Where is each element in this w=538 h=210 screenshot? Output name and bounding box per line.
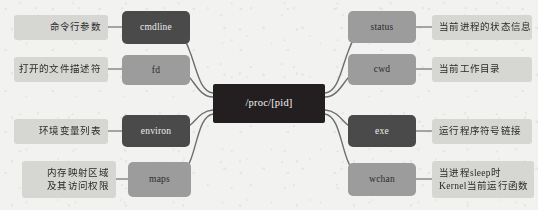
center-node-proc-pid[interactable]: /proc/[pid]	[213, 84, 325, 123]
node-maps[interactable]: maps	[128, 162, 191, 197]
leaf-exe-text: 运行程序符号链接	[439, 125, 521, 138]
node-environ-label: environ	[141, 126, 171, 137]
node-wchan-label: wchan	[369, 174, 395, 185]
node-exe[interactable]: exe	[348, 115, 416, 147]
node-maps-label: maps	[149, 174, 170, 185]
leaf-exe-description: 运行程序符号链接	[432, 119, 532, 144]
leaf-maps-text: 内存映射区域 及其访问权限	[47, 167, 109, 192]
node-wchan[interactable]: wchan	[348, 163, 416, 196]
leaf-fd-description: 打开的文件描述符	[14, 57, 108, 82]
leaf-environ-text: 环境变量列表	[39, 125, 101, 138]
node-cwd-label: cwd	[374, 64, 390, 75]
leaf-cmdline-text: 命令行参数	[50, 21, 102, 34]
leaf-fd-text: 打开的文件描述符	[19, 63, 101, 76]
node-environ[interactable]: environ	[122, 115, 190, 147]
leaf-environ-description: 环境变量列表	[14, 119, 108, 144]
node-status-label: status	[371, 22, 394, 33]
node-cmdline-label: cmdline	[140, 22, 172, 33]
leaf-status-text: 当前进程的状态信息	[439, 21, 532, 34]
node-fd[interactable]: fd	[122, 55, 190, 85]
leaf-cmdline-description: 命令行参数	[14, 15, 108, 40]
leaf-maps-description: 内存映射区域 及其访问权限	[22, 161, 116, 198]
center-node-label: /proc/[pid]	[245, 97, 292, 109]
node-exe-label: exe	[375, 126, 389, 137]
mindmap-canvas: /proc/[pid] cmdline fd environ maps 命令行参…	[0, 0, 538, 210]
leaf-wchan-text: 当进程sleep时 Kernel当前运行函数	[439, 167, 528, 192]
node-status[interactable]: status	[348, 11, 416, 43]
leaf-cwd-text: 当前工作目录	[439, 63, 501, 76]
leaf-wchan-description: 当进程sleep时 Kernel当前运行函数	[432, 161, 534, 198]
node-cwd[interactable]: cwd	[348, 54, 416, 85]
leaf-cwd-description: 当前工作目录	[432, 57, 532, 82]
leaf-status-description: 当前进程的状态信息	[432, 15, 532, 40]
node-cmdline[interactable]: cmdline	[122, 11, 190, 44]
node-fd-label: fd	[152, 65, 160, 76]
